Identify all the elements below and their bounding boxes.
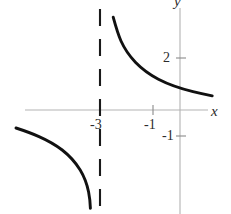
x-axis-name-label: x <box>211 104 218 119</box>
x-axis-tick-label-neg3: -3 <box>90 118 102 132</box>
graph-figure: -3 -1 2 -1 x y <box>0 0 231 214</box>
y-axis-tick-label-2: 2 <box>163 51 170 65</box>
plot-canvas <box>0 0 231 214</box>
y-axis-name-label: y <box>174 0 181 9</box>
y-axis-tick-label-neg1: -1 <box>162 129 174 143</box>
curve-lower-left-branch <box>16 128 90 208</box>
x-axis-tick-label-neg1: -1 <box>144 118 156 132</box>
